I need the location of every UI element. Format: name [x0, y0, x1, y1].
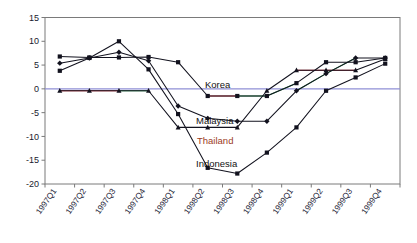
y-tick-label: -10	[26, 132, 39, 142]
series-group	[60, 41, 385, 173]
data-point-korea-1997Q3	[117, 55, 121, 59]
data-point-indonesia-1999Q1	[294, 125, 298, 129]
data-point-korea-1999Q2	[324, 60, 328, 64]
chart-container: 151050-5-10-15-20 KoreaMalaysiaThailandI…	[0, 0, 417, 243]
y-tick-label: 5	[34, 60, 39, 70]
y-tick-label: -20	[26, 179, 39, 189]
x-tick-label-1998Q4: 1998Q4	[241, 187, 265, 216]
series-label-thailand: Thailand	[197, 135, 233, 146]
series-label-korea: Korea	[205, 79, 231, 90]
series-annotation-group: KoreaMalaysiaThailandIndonesia	[196, 79, 238, 169]
data-point-indonesia-1999Q2	[324, 89, 328, 93]
series-label-malaysia: Malaysia	[196, 115, 234, 126]
series-line-indonesia	[60, 41, 385, 173]
x-tick-label-1998Q3: 1998Q3	[212, 187, 236, 216]
data-point-indonesia-1997Q1	[58, 69, 62, 73]
x-tick-label-1997Q3: 1997Q3	[94, 187, 118, 216]
data-point-malaysia-1999Q3	[353, 55, 358, 60]
data-point-indonesia-1997Q4	[146, 67, 150, 71]
series-line-korea	[60, 57, 385, 96]
data-point-korea-1998Q4	[265, 94, 269, 98]
x-tick-label-1999Q2: 1999Q2	[301, 187, 325, 216]
data-point-indonesia-1997Q2	[87, 56, 91, 60]
data-point-malaysia-1998Q3	[235, 119, 240, 124]
y-tick-label: 10	[29, 36, 39, 46]
x-tick-label-1998Q1: 1998Q1	[153, 187, 177, 216]
x-tick-label-1997Q1: 1997Q1	[34, 187, 58, 216]
data-point-korea-1999Q1	[294, 81, 298, 85]
data-point-korea-1997Q1	[58, 54, 62, 58]
x-tick-label-1997Q2: 1997Q2	[64, 187, 88, 216]
data-point-malaysia-1997Q1	[57, 60, 62, 65]
data-point-malaysia-1997Q3	[116, 50, 121, 55]
line-chart: 151050-5-10-15-20 KoreaMalaysiaThailandI…	[0, 0, 417, 243]
data-point-indonesia-1998Q3	[235, 171, 239, 175]
data-point-indonesia-1998Q1	[176, 112, 180, 116]
x-tick-label-1999Q3: 1999Q3	[330, 187, 354, 216]
data-point-indonesia-1998Q4	[265, 151, 269, 155]
x-tick-label-1999Q4: 1999Q4	[360, 187, 384, 216]
x-axis-label-group: 1997Q11997Q21997Q31997Q41998Q11998Q21998…	[34, 187, 384, 216]
x-tick-label-1998Q2: 1998Q2	[182, 187, 206, 216]
data-point-korea-1998Q2	[206, 94, 210, 98]
y-tick-label: -15	[26, 155, 39, 165]
data-point-malaysia-1998Q1	[175, 103, 180, 108]
series-marker-group	[57, 39, 388, 175]
x-tick-label-1999Q1: 1999Q1	[271, 187, 295, 216]
data-point-indonesia-1999Q3	[354, 75, 358, 79]
series-label-indonesia: Indonesia	[196, 158, 238, 169]
y-tick-label: 0	[34, 84, 39, 94]
data-point-indonesia-1997Q3	[117, 39, 121, 43]
data-point-indonesia-1999Q4	[383, 62, 387, 66]
data-point-korea-1998Q3	[235, 94, 239, 98]
y-tick-label: 15	[29, 13, 39, 23]
y-tick-label: -5	[31, 108, 39, 118]
x-tick-label-1997Q4: 1997Q4	[123, 187, 147, 216]
data-point-korea-1999Q3	[354, 60, 358, 64]
data-point-korea-1998Q1	[176, 60, 180, 64]
y-axis-tick-group: 151050-5-10-15-20	[26, 13, 45, 190]
